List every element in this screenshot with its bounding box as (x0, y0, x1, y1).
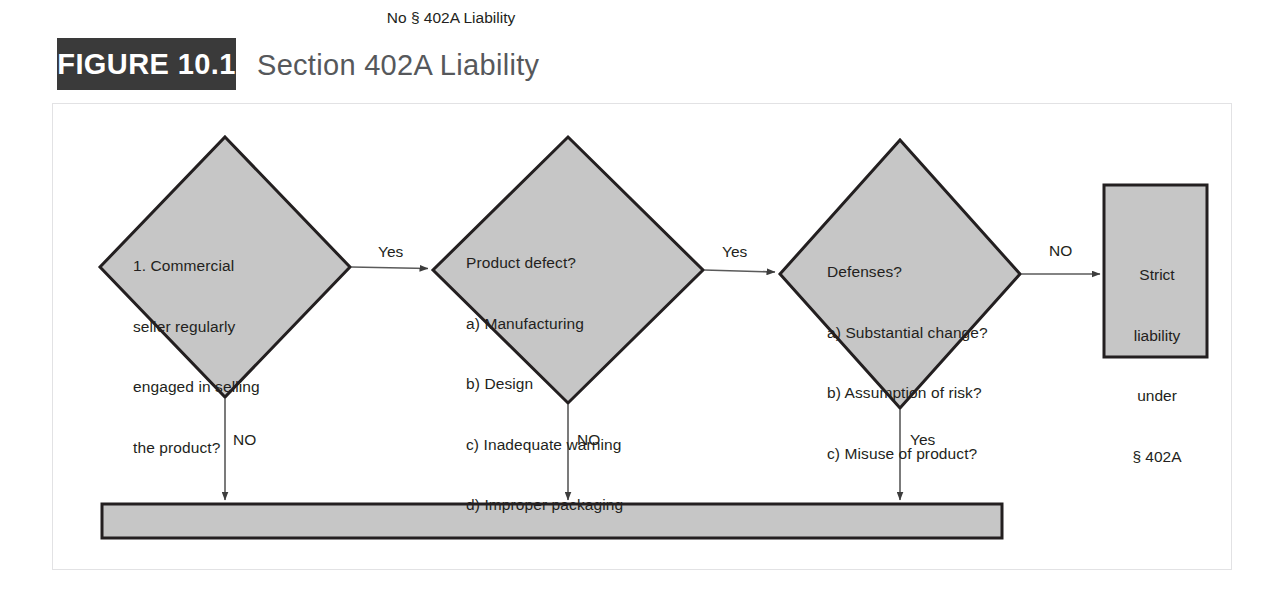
node-seller-line-3: engaged in selling (133, 377, 260, 397)
edge-label-defect-no: NO (577, 432, 600, 448)
figure-header: FIGURE 10.1 Section 402A Liability (57, 35, 1232, 97)
node-strict-line-2: liability (1112, 326, 1202, 346)
node-no-liability-label: No § 402A Liability (0, 0, 902, 36)
node-strict-line-4: § 402A (1112, 447, 1202, 467)
figure-page: FIGURE 10.1 Section 402A Liability (0, 0, 1282, 607)
edge-label-defect-yes: Yes (722, 244, 747, 260)
node-strict-line-1: Strict (1112, 265, 1202, 285)
node-defect-line-3: b) Design (466, 374, 623, 394)
node-defenses-line-4: c) Misuse of product? (827, 444, 988, 464)
node-seller-line-1: 1. Commercial (133, 256, 260, 276)
figure-number-badge: FIGURE 10.1 (57, 38, 236, 90)
node-strict-line-3: under (1112, 386, 1202, 406)
node-defect-label: Product defect? a) Manufacturing b) Desi… (466, 213, 623, 555)
node-defect-line-1: Product defect? (466, 253, 623, 273)
node-defenses-line-3: b) Assumption of risk? (827, 383, 988, 403)
figure-title: Section 402A Liability (257, 45, 539, 85)
edge-label-seller-yes: Yes (378, 244, 403, 260)
node-defenses-line-1: Defenses? (827, 262, 988, 282)
node-defenses-label: Defenses? a) Substantial change? b) Assu… (827, 222, 988, 504)
node-strict-liability-label: Strict liability under § 402A (1112, 225, 1202, 507)
node-seller-label: 1. Commercial seller regularly engaged i… (133, 216, 260, 498)
node-defenses-line-2: a) Substantial change? (827, 323, 988, 343)
edge-label-seller-no: NO (233, 432, 256, 448)
edge-label-defenses-no: NO (1049, 243, 1072, 259)
node-defect-line-5: d) Improper packaging (466, 495, 623, 515)
node-seller-line-2: seller regularly (133, 317, 260, 337)
figure-number-label: FIGURE 10.1 (57, 50, 235, 79)
node-defect-line-2: a) Manufacturing (466, 314, 623, 334)
edge-label-defenses-yes: Yes (910, 432, 935, 448)
